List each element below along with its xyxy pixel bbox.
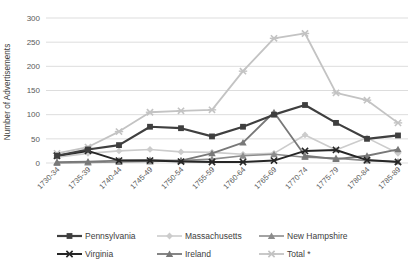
- series-marker-square: [364, 136, 370, 142]
- legend-marker-icon: [156, 249, 183, 259]
- x-tick-label: 1755-59: [190, 165, 216, 191]
- legend-item-total: Total *: [258, 247, 398, 261]
- legend-label: New Hampshire: [287, 231, 347, 241]
- legend-item-virginia: Virginia: [56, 247, 156, 261]
- series-marker-square: [209, 134, 215, 140]
- chart-plot-area: Number of Advertisements 050100150200250…: [0, 0, 414, 226]
- legend-item-pennsylvania: Pennsylvania: [56, 229, 156, 243]
- y-tick-label: 0: [36, 159, 41, 168]
- legend-item-massachusetts: Massachusetts: [156, 229, 258, 243]
- y-tick-label: 50: [31, 135, 40, 144]
- legend-label: Ireland: [185, 249, 211, 259]
- plot-series-group: 0501001502002503001730-341735-391740-441…: [27, 14, 408, 191]
- legend-label: Pennsylvania: [85, 231, 136, 241]
- y-tick-label: 100: [27, 110, 41, 119]
- legend-item-ireland: Ireland: [156, 247, 258, 261]
- x-tick-label: 1730-34: [35, 165, 61, 191]
- y-tick-label: 300: [27, 14, 41, 23]
- legend-marker-icon: [56, 249, 83, 259]
- series-marker-diamond: [178, 148, 185, 155]
- series-marker-diamond: [302, 132, 309, 139]
- series-marker-diamond: [147, 146, 154, 153]
- legend-label: Virginia: [85, 249, 113, 259]
- y-tick-label: 150: [27, 86, 41, 95]
- legend-marker-icon: [258, 231, 285, 241]
- legend-marker-icon: [56, 231, 83, 241]
- legend-marker-icon: [156, 231, 183, 241]
- series-marker-square: [67, 233, 73, 239]
- x-tick-label: 1745-49: [128, 165, 154, 191]
- series-marker-diamond: [166, 233, 173, 240]
- x-tick-label: 1785-89: [376, 165, 402, 191]
- x-tick-label: 1760-64: [221, 165, 247, 191]
- series-marker-square: [147, 124, 153, 130]
- x-tick-label: 1780-84: [345, 165, 371, 191]
- series-total-: [53, 30, 402, 156]
- chart-legend: PennsylvaniaMassachusettsNew HampshireVi…: [56, 229, 406, 261]
- legend-label: Total *: [287, 249, 311, 259]
- x-tick-label: 1750-54: [159, 165, 185, 191]
- series-marker-square: [54, 153, 60, 159]
- advertisements-line-chart: Number of Advertisements 050100150200250…: [0, 0, 414, 265]
- x-tick-label: 1775-79: [314, 165, 340, 191]
- series-marker-square: [302, 102, 308, 108]
- x-tick-label: 1770-74: [283, 165, 309, 191]
- series-marker-square: [271, 112, 277, 118]
- series-line: [57, 33, 398, 153]
- series-pennsylvania: [54, 102, 401, 159]
- y-tick-label: 200: [27, 62, 41, 71]
- series-marker-square: [333, 120, 339, 126]
- legend-item-new-hampshire: New Hampshire: [258, 229, 398, 243]
- series-marker-square: [240, 124, 246, 130]
- legend-label: Massachusetts: [185, 231, 242, 241]
- series-marker-square: [85, 147, 91, 153]
- x-tick-label: 1765-69: [252, 165, 278, 191]
- legend-marker-icon: [258, 249, 285, 259]
- x-tick-label: 1740-44: [97, 165, 123, 191]
- series-marker-square: [395, 133, 401, 139]
- x-tick-label: 1735-39: [66, 165, 92, 191]
- series-marker-square: [178, 125, 184, 131]
- y-tick-label: 250: [27, 38, 41, 47]
- series-marker-square: [116, 142, 122, 148]
- series-marker-diamond: [116, 148, 123, 155]
- y-axis-title: Number of Advertisements: [3, 44, 12, 140]
